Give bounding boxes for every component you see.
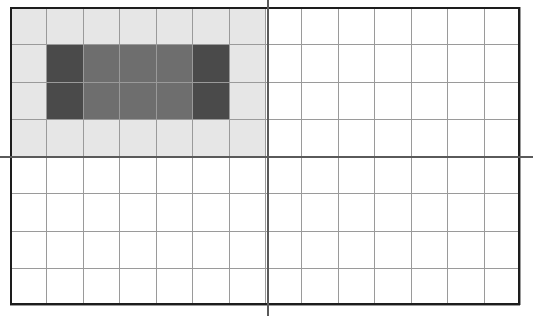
gridline-horizontal (10, 268, 520, 269)
gridline-horizontal (10, 82, 520, 83)
gridline-horizontal (10, 305, 520, 306)
gridline-horizontal (10, 193, 520, 194)
gridline-horizontal (10, 44, 520, 45)
gridline-horizontal (10, 231, 520, 232)
gridline-horizontal (10, 7, 520, 8)
vertical-axis (267, 0, 269, 316)
grid-figure (0, 0, 533, 316)
gridline-horizontal (10, 119, 520, 120)
